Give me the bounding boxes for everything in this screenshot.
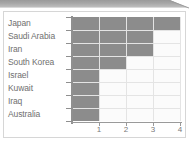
x-axis-tick-label: 4: [178, 126, 182, 134]
y-axis-tick: [66, 30, 71, 31]
y-axis-tick: [66, 95, 71, 96]
bar: [73, 43, 154, 56]
horizontal-gridline: [73, 43, 181, 44]
bar-row: [73, 30, 181, 43]
bar-row: [73, 69, 181, 82]
category-label: South Korea: [8, 56, 71, 69]
bar-row: [73, 43, 181, 56]
category-label: Kuwait: [8, 82, 71, 95]
x-axis-tick-label: 3: [151, 126, 155, 134]
page-corner-fold-line: [169, 0, 189, 9]
category-label: Japan: [8, 17, 71, 30]
category-label: Israel: [8, 69, 71, 82]
window-top-band: [0, 0, 189, 7]
chart-card: JapanSaudi ArabiaIranSouth KoreaIsraelKu…: [3, 11, 186, 138]
category-label: Saudi Arabia: [8, 30, 71, 43]
bar-row: [73, 82, 181, 95]
plot-area: [73, 17, 181, 121]
bar: [73, 95, 100, 108]
bar-chart: JapanSaudi ArabiaIranSouth KoreaIsraelKu…: [4, 12, 187, 139]
top-band-edge: [0, 7, 189, 8]
y-axis-tick: [66, 17, 71, 18]
horizontal-gridline: [73, 30, 181, 31]
bar-row: [73, 56, 181, 69]
bar-row: [73, 17, 181, 30]
horizontal-gridline: [73, 95, 181, 96]
category-label: Iraq: [8, 95, 71, 108]
bar: [73, 56, 127, 69]
x-axis-tick-label: 1: [97, 126, 101, 134]
category-axis-labels: JapanSaudi ArabiaIranSouth KoreaIsraelKu…: [8, 17, 71, 121]
bar-row: [73, 108, 181, 121]
horizontal-gridline: [73, 82, 181, 83]
screenshot-root: JapanSaudi ArabiaIranSouth KoreaIsraelKu…: [0, 0, 189, 141]
x-axis-tick-label: 2: [124, 126, 128, 134]
bar: [73, 82, 100, 95]
horizontal-gridline: [73, 56, 181, 57]
bar-row: [73, 95, 181, 108]
y-axis-tick: [66, 56, 71, 57]
category-label: Iran: [8, 43, 71, 56]
y-axis-tick: [66, 108, 71, 109]
y-axis-tick: [66, 43, 71, 44]
y-axis-tick: [66, 121, 71, 122]
horizontal-gridline: [73, 69, 181, 70]
horizontal-gridline: [73, 108, 181, 109]
bar: [73, 17, 181, 30]
bar: [73, 69, 100, 82]
bar: [73, 30, 154, 43]
y-axis-line: [71, 16, 73, 124]
y-axis-tick: [66, 82, 71, 83]
y-axis-tick: [66, 69, 71, 70]
bar: [73, 108, 100, 121]
category-label: Australia: [8, 108, 71, 121]
